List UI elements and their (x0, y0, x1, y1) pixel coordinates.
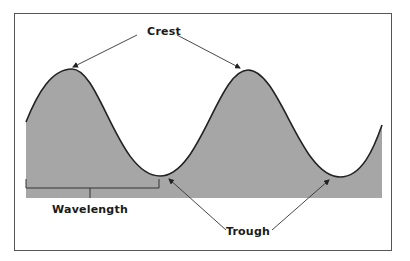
wave-fill (26, 69, 382, 198)
trough-label: Trough (226, 225, 270, 238)
wavelength-label: Wavelength (52, 203, 128, 216)
crest-label: Crest (147, 25, 181, 38)
crest-arrow-left (73, 35, 137, 67)
wave-diagram (0, 0, 410, 261)
crest-arrow-right (177, 35, 240, 68)
